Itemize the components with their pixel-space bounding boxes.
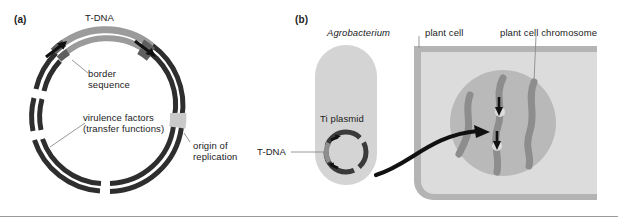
label-t-dna-b: T-DNA bbox=[257, 146, 286, 157]
panel-a-plasmid bbox=[32, 30, 190, 192]
panel-b-tag: (b) bbox=[295, 14, 308, 25]
border-sequence-block-left-inner bbox=[59, 52, 68, 59]
leader-line-virulence-factors bbox=[50, 123, 85, 147]
label-agrobacterium: Agrobacterium bbox=[327, 27, 390, 38]
label-plant-cell: plant cell bbox=[425, 27, 464, 38]
leader-line-border-sequence bbox=[72, 60, 88, 73]
label-virulence-factors: virulence factors (transfer functions) bbox=[83, 112, 164, 134]
panel-a-tag: (a) bbox=[14, 14, 27, 25]
label-plant-cell-chromosome: plant cell chromosome bbox=[500, 27, 597, 38]
leader-line-origin-of-replication bbox=[184, 133, 190, 142]
label-origin-of-replication: origin of replication bbox=[193, 140, 237, 162]
origin-of-replication-block bbox=[181, 113, 182, 128]
label-t-dna-a: T-DNA bbox=[85, 12, 114, 23]
origin-of-replication-block-inner bbox=[173, 113, 174, 127]
figure-root: (a) T-DNA border sequence virulence fact… bbox=[0, 0, 618, 217]
ti-plasmid-t-dna-segment bbox=[326, 143, 329, 162]
label-ti-plasmid: Ti plasmid bbox=[320, 113, 364, 124]
label-border-sequence: border sequence bbox=[88, 68, 130, 90]
